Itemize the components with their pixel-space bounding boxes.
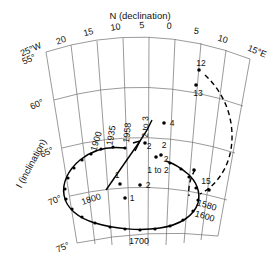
point-1b — [123, 196, 127, 200]
svg-text:0: 0 — [166, 21, 172, 31]
point-13 — [194, 83, 198, 87]
svg-text:1935: 1935 — [104, 125, 117, 146]
svg-text:1800: 1800 — [80, 191, 102, 207]
svg-text:2: 2 — [146, 180, 151, 190]
point-4 — [162, 121, 166, 125]
point-2d — [138, 183, 142, 187]
svg-text:75°: 75° — [55, 240, 72, 255]
svg-text:5: 5 — [139, 20, 145, 30]
point-2c — [159, 153, 163, 157]
inclination-tick-labels: 55° 60° 65° 70° 75° — [21, 52, 72, 255]
svg-text:2: 2 — [162, 140, 167, 150]
svg-text:70°: 70° — [47, 193, 64, 208]
svg-text:10: 10 — [217, 33, 229, 45]
declination-tick-labels: 25°W 20 15 10 5 0 5 10 15°E — [19, 20, 268, 60]
point-15b — [192, 168, 196, 172]
svg-text:1 to 2: 1 to 2 — [147, 165, 169, 175]
svg-text:20: 20 — [55, 34, 68, 47]
svg-text:5: 5 — [193, 26, 200, 37]
left-axis-title: I (inclination) — [13, 137, 48, 190]
svg-text:60°: 60° — [29, 97, 46, 112]
svg-text:10: 10 — [110, 21, 121, 32]
svg-text:12: 12 — [196, 58, 206, 68]
point-15 — [207, 188, 211, 192]
svg-text:15°E: 15°E — [246, 43, 268, 60]
svg-text:2: 2 — [164, 154, 169, 164]
svg-text:15: 15 — [201, 176, 211, 186]
point-2b — [154, 155, 158, 159]
point-1a — [118, 182, 122, 186]
svg-text:1: 1 — [130, 193, 135, 203]
svg-text:13: 13 — [193, 88, 203, 98]
svg-text:2 to 3: 2 to 3 — [140, 116, 151, 138]
svg-text:15: 15 — [82, 26, 94, 38]
svg-text:1700: 1700 — [129, 236, 149, 246]
declination-inclination-chart: N (declination) I (inclination) 25°W 20 … — [0, 0, 280, 263]
svg-text:1: 1 — [115, 170, 120, 180]
secular-variation-loop-curve — [64, 148, 199, 230]
svg-text:2: 2 — [147, 141, 152, 151]
svg-text:4: 4 — [170, 118, 175, 128]
point-12 — [197, 68, 201, 72]
svg-text:1958: 1958 — [121, 122, 133, 143]
